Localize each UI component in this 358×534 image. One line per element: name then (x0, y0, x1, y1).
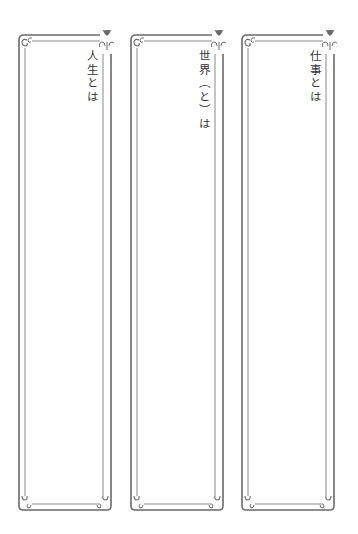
frame-work: 仕事とは (237, 30, 337, 514)
frame-title: 世界（と）は (198, 50, 210, 131)
ornamental-border-icon (126, 30, 226, 514)
frame-title: 仕事とは (309, 50, 321, 104)
frame-life: 人生とは (14, 30, 114, 514)
ornamental-border-icon (237, 30, 337, 514)
ornamental-border-icon (14, 30, 114, 514)
frame-title: 人生とは (86, 50, 98, 104)
frame-world: 世界（と）は (126, 30, 226, 514)
